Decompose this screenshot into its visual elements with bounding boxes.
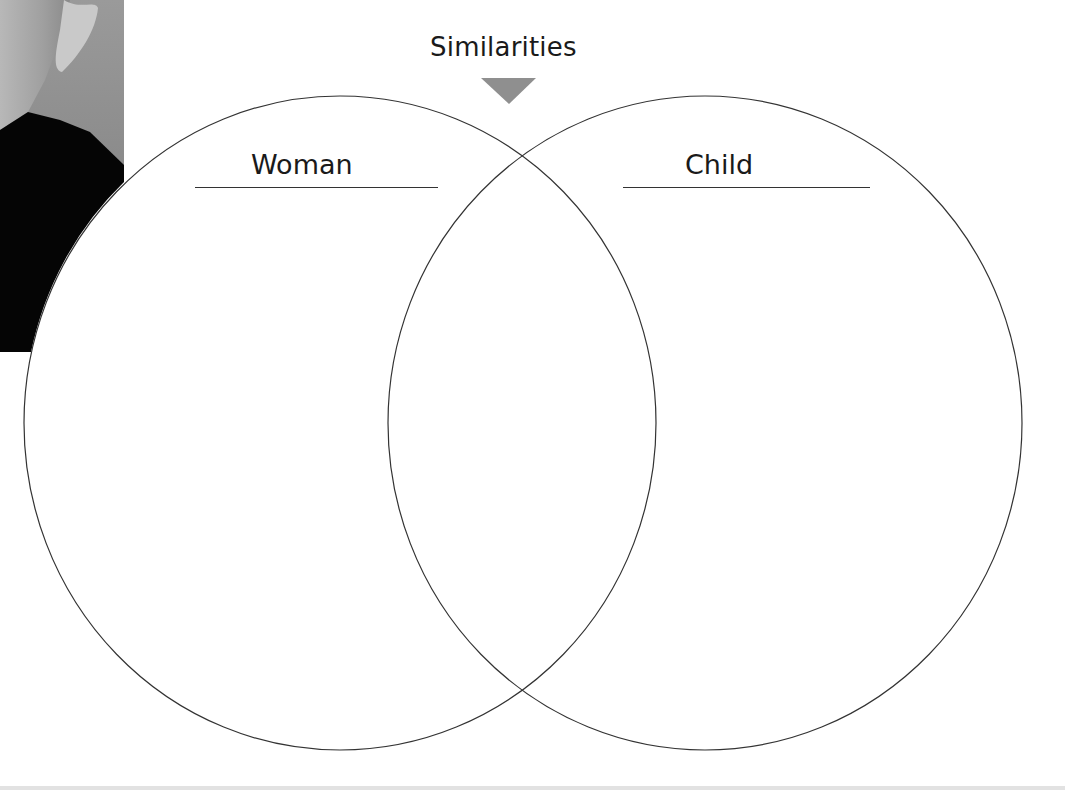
page-bottom-edge xyxy=(0,786,1065,790)
child-label: Child xyxy=(685,149,753,180)
pointer-triangle-icon xyxy=(481,78,536,104)
child-circle xyxy=(388,96,1022,750)
woman-label: Woman xyxy=(251,149,353,180)
child-answer-line[interactable] xyxy=(623,187,870,188)
woman-answer-line[interactable] xyxy=(195,187,438,188)
woman-circle xyxy=(24,96,656,750)
similarities-title: Similarities xyxy=(430,32,577,62)
venn-diagram xyxy=(0,0,1065,790)
